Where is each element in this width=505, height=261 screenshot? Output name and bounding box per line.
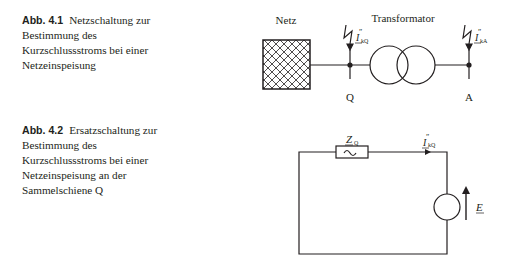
network-feeder-icon bbox=[263, 40, 310, 89]
current-label-q: I ″ kQ bbox=[355, 28, 369, 44]
svg-text:″: ″ bbox=[359, 28, 362, 37]
netz-label: Netz bbox=[276, 14, 297, 26]
source-label: E bbox=[475, 201, 484, 213]
svg-text:kQ: kQ bbox=[361, 38, 369, 44]
short-circuit-a-icon bbox=[463, 25, 471, 44]
svg-text:kQ: kQ bbox=[428, 142, 436, 148]
node-a-label: A bbox=[465, 91, 473, 103]
impedance-icon bbox=[336, 146, 368, 158]
transformer-winding-2 bbox=[397, 46, 435, 84]
svg-text:Z: Z bbox=[346, 133, 353, 145]
current-arrow-icon bbox=[425, 149, 431, 155]
transformer-label: Transformator bbox=[371, 12, 434, 24]
svg-text:E: E bbox=[475, 201, 483, 213]
diagrams: Netz Transformator Q A I ″ kQ I ″ kA bbox=[0, 0, 505, 261]
node-q-label: Q bbox=[346, 91, 354, 103]
current-label-kq: I ″ kQ bbox=[422, 133, 436, 148]
node-q-dot bbox=[347, 62, 352, 67]
equivalent-circuit-diagram bbox=[299, 146, 470, 254]
network-circuit-diagram: Netz Transformator Q A bbox=[263, 12, 473, 103]
voltage-source-icon bbox=[434, 194, 460, 220]
impedance-label: Z Q bbox=[345, 133, 359, 146]
svg-text:″: ″ bbox=[426, 133, 429, 142]
node-a-dot bbox=[466, 62, 471, 67]
svg-text:″: ″ bbox=[478, 28, 481, 37]
svg-text:Q: Q bbox=[354, 140, 359, 146]
svg-text:kA: kA bbox=[480, 38, 488, 44]
current-label-a: I ″ kA bbox=[474, 28, 488, 44]
emf-arrow-icon bbox=[462, 186, 470, 194]
short-circuit-q-icon bbox=[344, 25, 352, 44]
